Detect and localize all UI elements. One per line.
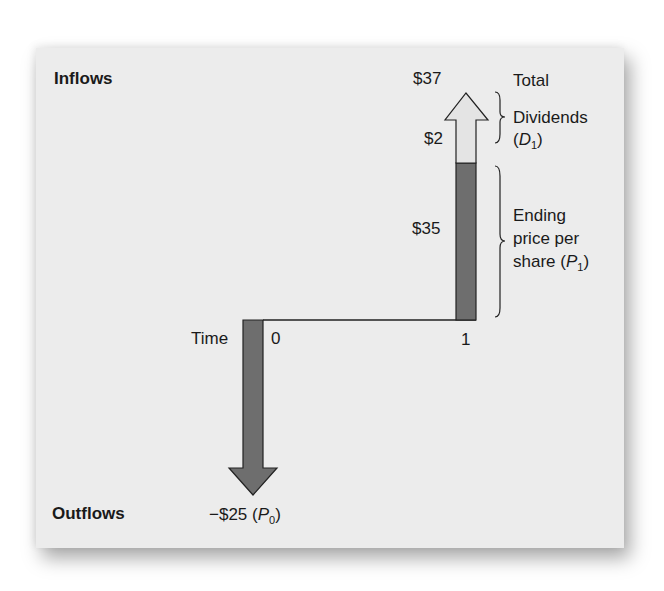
- dividends-value: $2: [424, 129, 443, 149]
- price-value: $35: [412, 219, 440, 239]
- dividends-brace: [495, 92, 505, 143]
- total-label: Total: [513, 71, 549, 91]
- price-label-line2: price per: [513, 229, 579, 249]
- inflows-label: Inflows: [54, 69, 113, 89]
- p0-symbol: P: [258, 505, 269, 524]
- outflow-arrow-down-icon: [229, 320, 277, 495]
- close-paren: ): [583, 252, 589, 271]
- outflow-amount: −$25 (: [209, 505, 258, 524]
- outflow-value: −$25 (P0): [209, 505, 281, 530]
- close-paren: ): [275, 505, 281, 524]
- time-tick-0: 0: [271, 329, 280, 349]
- price-brace: [495, 166, 505, 317]
- dividend-arrow-up-icon: [445, 93, 488, 163]
- dividends-symbol: (D1): [513, 130, 543, 155]
- price-label-line1: Ending: [513, 206, 566, 226]
- time-label: Time: [191, 329, 228, 349]
- d-subscript: 1: [531, 139, 537, 151]
- price-bar: [456, 163, 476, 320]
- p1-symbol: P: [566, 252, 577, 271]
- share-text: share (: [513, 252, 566, 271]
- price-label-line3: share (P1): [513, 252, 589, 277]
- outflows-label: Outflows: [52, 504, 125, 524]
- time-tick-1: 1: [461, 330, 470, 350]
- dividends-label: Dividends: [513, 108, 588, 128]
- total-value: $37: [413, 69, 441, 89]
- d-symbol: D: [519, 130, 531, 149]
